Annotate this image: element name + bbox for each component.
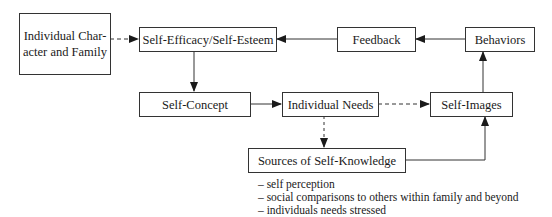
node-label: Behaviors [475, 32, 526, 48]
node-self-concept: Self-Concept [139, 92, 251, 117]
node-label: Self-Images [441, 97, 501, 113]
node-sources-of-self-knowledge: Sources of Self-Knowledge [248, 148, 406, 173]
edge-sources-to-images [405, 117, 485, 160]
node-label-line2: acter and Family [23, 44, 107, 60]
node-label: Self-Efficacy/Self-Esteem [143, 32, 274, 48]
note-item: – social comparisons to others within fa… [258, 191, 519, 204]
node-individual-character-family: Individual Char- acter and Family [19, 13, 111, 75]
note-item: – self perception [258, 178, 519, 191]
node-label: Individual Needs [288, 97, 374, 113]
node-feedback: Feedback [337, 27, 416, 52]
node-self-efficacy: Self-Efficacy/Self-Esteem [139, 27, 277, 52]
node-label: Feedback [353, 32, 401, 48]
node-label: Sources of Self-Knowledge [258, 153, 396, 169]
node-label-line1: Individual Char- [24, 28, 107, 44]
node-label: Self-Concept [162, 97, 228, 113]
sources-notes-list: – self perception – social comparisons t… [258, 178, 519, 217]
node-individual-needs: Individual Needs [282, 92, 379, 117]
node-behaviors: Behaviors [465, 27, 535, 52]
note-item: – individuals needs stressed [258, 204, 519, 217]
node-self-images: Self-Images [430, 92, 513, 117]
